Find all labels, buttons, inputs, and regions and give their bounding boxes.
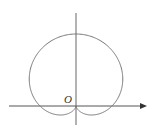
cardioid-diagram: O	[0, 0, 156, 134]
x-axis-arrow-icon	[140, 103, 147, 109]
origin-label: O	[64, 93, 72, 105]
